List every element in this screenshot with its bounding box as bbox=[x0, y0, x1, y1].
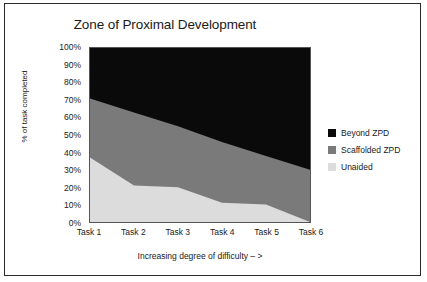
legend-swatch-icon bbox=[328, 129, 336, 137]
chart-container: Zone of Proximal Development % of task c… bbox=[5, 4, 419, 274]
x-tick-label: Task 4 bbox=[210, 227, 235, 237]
y-axis-title: % of task completed bbox=[20, 52, 29, 162]
y-tick-label: 90% bbox=[64, 60, 81, 70]
legend-label: Beyond ZPD bbox=[341, 128, 389, 138]
figure-border: Zone of Proximal Development % of task c… bbox=[4, 3, 421, 276]
chart-title: Zone of Proximal Development bbox=[5, 17, 325, 32]
y-tick-label: 100% bbox=[59, 42, 81, 52]
y-tick-label: 60% bbox=[64, 112, 81, 122]
y-tick-label: 40% bbox=[64, 148, 81, 158]
y-tick-label: 10% bbox=[64, 200, 81, 210]
x-axis-tick-labels: Task 1Task 2Task 3Task 4Task 5Task 6 bbox=[89, 227, 311, 241]
legend-swatch-icon bbox=[328, 163, 336, 171]
y-tick-label: 70% bbox=[64, 95, 81, 105]
legend-item: Unaided bbox=[328, 162, 418, 172]
y-tick-label: 80% bbox=[64, 77, 81, 87]
legend-label: Unaided bbox=[341, 162, 373, 172]
y-tick-label: 30% bbox=[64, 165, 81, 175]
x-tick-label: Task 3 bbox=[166, 227, 191, 237]
legend-label: Scaffolded ZPD bbox=[341, 145, 400, 155]
legend-item: Beyond ZPD bbox=[328, 128, 418, 138]
x-tick-label: Task 2 bbox=[121, 227, 146, 237]
legend-swatch-icon bbox=[328, 146, 336, 154]
x-axis-title: Increasing degree of difficulty – > bbox=[89, 251, 311, 261]
x-tick-label: Task 6 bbox=[299, 227, 324, 237]
legend-item: Scaffolded ZPD bbox=[328, 145, 418, 155]
x-tick-label: Task 1 bbox=[77, 227, 102, 237]
chart-legend: Beyond ZPDScaffolded ZPDUnaided bbox=[328, 128, 418, 179]
stacked-area-plot bbox=[90, 48, 310, 222]
y-axis-tick-labels: 0%10%20%30%40%50%60%70%80%90%100% bbox=[49, 47, 85, 223]
x-tick-label: Task 5 bbox=[254, 227, 279, 237]
y-tick-label: 20% bbox=[64, 183, 81, 193]
y-tick-label: 50% bbox=[64, 130, 81, 140]
plot-area bbox=[89, 47, 311, 223]
